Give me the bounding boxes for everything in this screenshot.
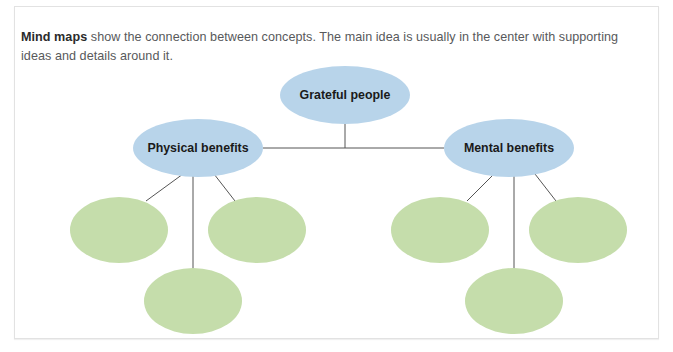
node-left-child-2[interactable] bbox=[208, 197, 306, 263]
connector-left-to-l1 bbox=[146, 174, 183, 201]
node-right-child-1[interactable] bbox=[391, 197, 489, 263]
screenshot-root: Mind maps show the connection between co… bbox=[0, 0, 673, 352]
node-right-child-2[interactable] bbox=[529, 197, 627, 263]
node-left-child-3[interactable] bbox=[144, 268, 242, 334]
intro-lead-term: Mind maps bbox=[21, 30, 87, 44]
root-node-group: Grateful people bbox=[280, 66, 410, 124]
mind-map-diagram: Physical benefits Mental benefits Gratef… bbox=[15, 53, 658, 338]
node-physical-benefits-label: Physical benefits bbox=[147, 141, 248, 155]
node-left-child-1[interactable] bbox=[70, 197, 168, 263]
mind-map-card: Mind maps show the connection between co… bbox=[14, 6, 659, 339]
connector-left-to-l2 bbox=[214, 174, 235, 201]
connector-right-to-r1 bbox=[467, 174, 494, 201]
secondary-nodes-group bbox=[70, 197, 627, 334]
connector-right-to-r2 bbox=[535, 174, 556, 201]
node-grateful-people-label: Grateful people bbox=[300, 88, 391, 102]
node-right-child-3[interactable] bbox=[465, 268, 563, 334]
node-mental-benefits-label: Mental benefits bbox=[464, 141, 554, 155]
